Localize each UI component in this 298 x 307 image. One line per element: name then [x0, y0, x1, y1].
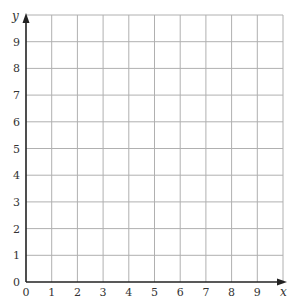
y-tick-label: 1	[13, 249, 20, 262]
grid-lines	[26, 15, 283, 282]
x-axis-label: x	[280, 285, 287, 299]
x-tick-label: 4	[125, 286, 132, 299]
coordinate-grid: 0123456789 0123456789 x y	[0, 0, 298, 307]
y-tick-label: 7	[13, 89, 20, 102]
x-tick-label: 7	[202, 286, 209, 299]
x-tick-label: 9	[254, 286, 261, 299]
x-tick-label: 8	[228, 286, 235, 299]
y-tick-labels: 0123456789	[13, 36, 20, 289]
y-tick-label: 2	[13, 223, 20, 236]
x-tick-label: 1	[48, 286, 55, 299]
x-tick-label: 2	[74, 286, 81, 299]
x-tick-labels: 0123456789	[23, 286, 261, 299]
x-tick-label: 6	[177, 286, 184, 299]
x-tick-label: 3	[100, 286, 107, 299]
x-tick-label: 5	[151, 286, 158, 299]
y-tick-label: 6	[13, 116, 20, 129]
y-tick-label: 3	[13, 196, 20, 209]
y-tick-label: 8	[13, 62, 20, 75]
y-tick-label: 4	[13, 169, 20, 182]
x-tick-label: 0	[23, 286, 30, 299]
y-tick-label: 0	[13, 276, 20, 289]
y-tick-label: 5	[13, 143, 20, 156]
y-axis-label: y	[11, 9, 19, 23]
y-tick-label: 9	[13, 36, 20, 49]
